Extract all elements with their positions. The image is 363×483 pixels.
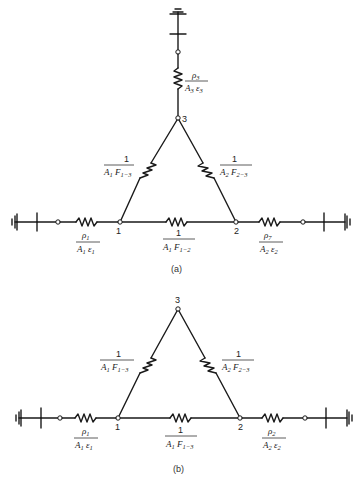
resistor-label-r13: 1 A1 F1−3 xyxy=(100,349,134,373)
wire xyxy=(119,373,140,416)
svg-text:1: 1 xyxy=(124,154,129,164)
svg-text:1: 1 xyxy=(176,228,181,238)
resistor-label-r1: ρ1 A1 ε1 xyxy=(74,426,98,451)
resistor-label-r1: ρ1 A1 ε1 xyxy=(76,230,100,255)
wire xyxy=(151,311,177,358)
svg-text:ρ1: ρ1 xyxy=(81,230,90,241)
svg-text:ρ2: ρ2 xyxy=(267,426,276,437)
svg-text:A1 ε1: A1 ε1 xyxy=(76,244,95,255)
node-label-3: 3 xyxy=(175,295,180,305)
wire xyxy=(214,178,235,220)
svg-text:A1 F1−3: A1 F1−3 xyxy=(103,167,132,178)
svg-text:A2 ε2: A2 ε2 xyxy=(262,440,282,451)
resistor-label-r13: 1 A1 F1−3 xyxy=(103,154,134,178)
ground-icon-right xyxy=(347,410,352,426)
wire xyxy=(151,120,177,163)
resistor-icon-r1 xyxy=(76,218,97,226)
node-label-2: 2 xyxy=(238,422,243,432)
wire xyxy=(179,120,203,163)
radiation-network-diagram: ρ3 A3 ε3 3 1 A1 F1−3 1 A2 F2−3 1 xyxy=(0,0,363,483)
svg-text:1: 1 xyxy=(178,425,183,435)
svg-text:A1 F1−2: A1 F1−2 xyxy=(162,242,191,253)
resistor-label-r12: 1 A1 F1−3 xyxy=(165,425,197,450)
resistor-icon-r2 xyxy=(259,218,280,226)
svg-text:A2 ε2: A2 ε2 xyxy=(259,244,279,255)
resistor-label-r23: 1 A2 F2−3 xyxy=(219,154,252,178)
node-3 xyxy=(176,116,180,120)
svg-text:1: 1 xyxy=(236,349,241,359)
wire xyxy=(121,178,140,220)
wire xyxy=(179,311,205,358)
panel-a: ρ3 A3 ε3 3 1 A1 F1−3 1 A2 F2−3 1 xyxy=(12,9,350,274)
svg-text:1: 1 xyxy=(232,154,237,164)
resistor-icon-r23 xyxy=(198,163,214,178)
svg-text:A2 F2−3: A2 F2−3 xyxy=(219,167,248,178)
svg-text:ρ7: ρ7 xyxy=(263,230,272,241)
resistor-icon-r12 xyxy=(166,218,187,226)
node-3 xyxy=(176,307,180,311)
node-label-1: 1 xyxy=(115,422,120,432)
ground-icon-left xyxy=(16,410,21,426)
node-label-2: 2 xyxy=(234,226,239,236)
panel-caption-b: (b) xyxy=(173,464,184,474)
resistor-label-r23: 1 A2 F2−3 xyxy=(221,349,254,373)
resistor-icon-r13 xyxy=(140,358,156,373)
svg-text:ρ3: ρ3 xyxy=(191,70,200,81)
ground-icon-left xyxy=(12,214,17,230)
svg-text:A3 ε3: A3 ε3 xyxy=(184,83,204,94)
resistor-icon-r13 xyxy=(140,163,156,178)
svg-text:A2 F2−3: A2 F2−3 xyxy=(221,362,250,373)
resistor-label-r3: ρ3 A3 ε3 xyxy=(184,70,208,94)
panel-caption-a: (a) xyxy=(171,264,182,274)
node-label-1: 1 xyxy=(116,226,121,236)
resistor-label-r2: ρ2 A2 ε2 xyxy=(262,426,286,451)
resistor-icon-r1 xyxy=(75,414,96,422)
node-label-3: 3 xyxy=(182,114,187,124)
svg-text:A1 F1−3: A1 F1−3 xyxy=(100,362,129,373)
wire xyxy=(216,373,239,416)
svg-text:A1 ε1: A1 ε1 xyxy=(74,440,93,451)
resistor-icon-r3 xyxy=(174,68,182,89)
resistor-label-r12: 1 A1 F1−2 xyxy=(162,228,195,253)
svg-text:1: 1 xyxy=(116,349,121,359)
resistor-icon-r2 xyxy=(262,414,283,422)
resistor-icon-r12 xyxy=(170,414,191,422)
svg-text:A1 F1−3: A1 F1−3 xyxy=(165,439,194,450)
ground-icon-right xyxy=(345,214,350,230)
resistor-label-r2: ρ7 A2 ε2 xyxy=(259,230,283,255)
ground-icon-top xyxy=(170,9,186,14)
resistor-icon-r23 xyxy=(200,358,216,373)
panel-b: 3 1 A1 F1−3 1 A2 F2−3 1 A1 F1−3 1 xyxy=(16,295,352,474)
svg-text:ρ1: ρ1 xyxy=(81,426,90,437)
